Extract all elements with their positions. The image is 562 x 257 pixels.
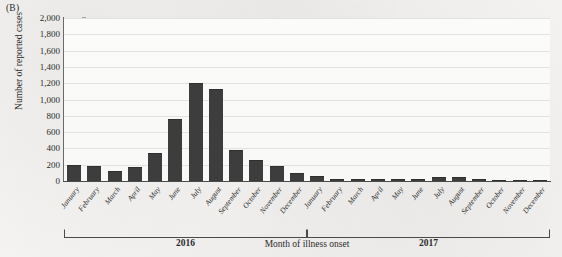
bar-slot: [408, 18, 428, 181]
y-tick-label: 400: [47, 144, 61, 153]
x-label-slot: May: [145, 183, 165, 227]
bar-slot: [469, 18, 489, 181]
x-label-slot: March: [348, 183, 368, 227]
bar-slot: [64, 18, 84, 181]
year-label: 2017: [419, 238, 438, 248]
bar-slot: [287, 18, 307, 181]
bar-slot: [186, 18, 206, 181]
y-tick-label: 1,800: [40, 30, 60, 39]
year-brackets: Month of illness onset 20162017: [64, 229, 550, 241]
bar-slot: [125, 18, 145, 181]
x-axis-title: Month of illness onset: [265, 239, 350, 249]
bar-slot: [530, 18, 550, 181]
y-axis-tick-labels: 2,0001,8001,6001,4001,2001,0008006004002…: [20, 12, 60, 187]
bar-slot: [449, 18, 469, 181]
year-label: 2016: [176, 238, 195, 248]
y-tick-label: 2,000: [40, 14, 60, 23]
bar-slot: [388, 18, 408, 181]
x-label-slot: February: [84, 183, 104, 227]
bar: [108, 171, 122, 181]
bar: [168, 119, 182, 181]
year-bracket: [64, 229, 307, 238]
bar-slot: [206, 18, 226, 181]
x-tick-label: May: [390, 185, 405, 201]
x-tick-label: March: [102, 185, 121, 206]
bar-slot: [489, 18, 509, 181]
bar-slot: [368, 18, 388, 181]
bar-slot: [429, 18, 449, 181]
figure-panel-b: (B) Number of reported cases 2,0001,8001…: [0, 0, 562, 257]
x-label-slot: July: [429, 183, 449, 227]
year-bracket: [307, 229, 550, 238]
x-tick-label: July: [188, 185, 203, 201]
x-label-slot: December: [530, 183, 550, 227]
bar-slot: [267, 18, 287, 181]
x-label-slot: April: [125, 183, 145, 227]
bar: [229, 150, 243, 181]
bar: [189, 83, 203, 181]
bar: [128, 167, 142, 181]
y-tick-label: 1,000: [40, 95, 60, 104]
x-tick-label: June: [410, 185, 426, 202]
bar: [290, 173, 304, 181]
bar-slot: [510, 18, 530, 181]
bar: [87, 166, 101, 181]
bar: [148, 153, 162, 181]
x-label-slot: April: [368, 183, 388, 227]
y-tick-label: 0: [56, 177, 61, 186]
bar: [67, 165, 81, 181]
bar: [249, 160, 263, 181]
x-tick-label: April: [125, 185, 142, 203]
bar-slot: [246, 18, 266, 181]
bar-slot: [84, 18, 104, 181]
y-tick-label: 1,200: [40, 79, 60, 88]
y-tick-label: 1,600: [40, 46, 60, 55]
bar-series: [64, 18, 550, 181]
x-tick-label: June: [167, 185, 183, 202]
x-label-slot: June: [165, 183, 185, 227]
plot-area: [64, 18, 550, 181]
x-label-slot: July: [186, 183, 206, 227]
bar-slot: [226, 18, 246, 181]
x-axis-tick-labels: JanuaryFebruaryMarchAprilMayJuneJulyAugu…: [64, 183, 550, 227]
bar-slot: [165, 18, 185, 181]
bar: [270, 166, 284, 181]
x-label-slot: June: [408, 183, 428, 227]
bar-slot: [307, 18, 327, 181]
y-tick-label: 200: [47, 160, 61, 169]
bar-slot: [348, 18, 368, 181]
x-label-slot: February: [327, 183, 347, 227]
y-tick-label: 800: [47, 111, 61, 120]
x-tick-label: July: [431, 185, 446, 201]
x-tick-label: April: [368, 185, 385, 203]
bar: [209, 89, 223, 181]
x-label-slot: May: [388, 183, 408, 227]
x-tick-label: May: [147, 185, 162, 201]
bar-slot: [145, 18, 165, 181]
x-axis-line: [63, 181, 551, 182]
y-tick-label: 1,400: [40, 62, 60, 71]
x-tick-label: March: [345, 185, 364, 206]
x-label-slot: March: [105, 183, 125, 227]
y-tick-label: 600: [47, 128, 61, 137]
bar-slot: [105, 18, 125, 181]
bar-slot: [327, 18, 347, 181]
